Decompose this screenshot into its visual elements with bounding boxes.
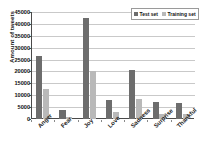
x-tick-mark <box>54 120 55 122</box>
bar <box>106 100 112 119</box>
bar-series-container <box>31 12 194 119</box>
bar-group <box>31 12 54 119</box>
y-tick-label: 15000 <box>2 79 30 87</box>
y-tick-label: 45000 <box>2 8 30 16</box>
x-axis-labels: AngerFearJoyLoveSadnessSurpriseThankful <box>31 120 194 156</box>
bar <box>36 56 42 119</box>
y-tick-label: 10000 <box>2 91 30 99</box>
y-tick-label: 0 <box>2 115 30 123</box>
y-tick-label: 25000 <box>2 56 30 64</box>
y-tick-label: 5000 <box>2 103 30 111</box>
bar-chart: Amount of tweets 45000400003500030000250… <box>0 0 204 156</box>
legend-swatch <box>162 12 166 16</box>
legend-label: Test set <box>140 11 159 17</box>
legend-item: Training set <box>162 11 196 17</box>
chart-legend: Test setTraining set <box>131 8 199 20</box>
legend-swatch <box>134 12 138 16</box>
x-tick-mark <box>124 120 125 122</box>
legend-label: Training set <box>168 11 196 17</box>
y-tick-label: 40000 <box>2 20 30 28</box>
bar-group <box>147 12 170 119</box>
bar-group <box>54 12 77 119</box>
legend-item: Test set <box>134 11 158 17</box>
bar-group <box>78 12 101 119</box>
bar-group <box>171 12 194 119</box>
bar-group <box>101 12 124 119</box>
x-tick-mark <box>78 120 79 122</box>
bar <box>129 70 135 119</box>
x-tick-mark <box>31 120 32 122</box>
bar-group <box>124 12 147 119</box>
y-tick-label: 30000 <box>2 44 30 52</box>
bar <box>83 18 89 119</box>
y-tick-label: 35000 <box>2 32 30 40</box>
x-tick-mark <box>171 120 172 122</box>
x-tick-mark <box>147 120 148 122</box>
x-tick-mark <box>101 120 102 122</box>
y-axis-ticks: 4500040000350003000025000200001500010000… <box>0 0 30 156</box>
y-tick-label: 20000 <box>2 67 30 75</box>
bar <box>90 71 96 119</box>
